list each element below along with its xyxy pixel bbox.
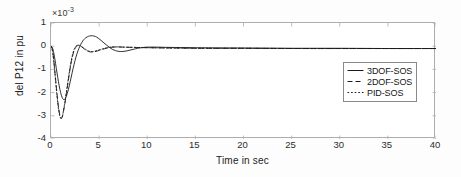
legend-line-sample — [347, 66, 364, 75]
y-tick-label: -2 — [22, 87, 46, 97]
x-tick-label: 5 — [95, 140, 100, 150]
y-tick-label: -1 — [22, 63, 46, 73]
x-tick-label: 0 — [47, 140, 52, 150]
x-tick-label: 35 — [382, 140, 393, 150]
y-axis-title: del P12 in pu — [14, 20, 25, 112]
legend-label: PID-SOS — [367, 88, 403, 98]
y-tick-label: 0 — [22, 40, 46, 50]
y-tick-label: 1 — [22, 17, 46, 27]
y-axis-exponent-label: ×10-3 — [52, 6, 74, 18]
y-exponent-power: -3 — [68, 6, 74, 13]
x-tick-label: 40 — [430, 140, 441, 150]
x-tick-label: 10 — [141, 140, 152, 150]
x-tick-label: 30 — [333, 140, 344, 150]
legend-line-sample — [347, 88, 364, 97]
x-axis-tick-labels: 0510152025303540 — [50, 140, 435, 154]
x-tick-label: 20 — [237, 140, 248, 150]
legend-line-sample — [347, 77, 364, 86]
x-axis-title: Time in sec — [50, 155, 435, 166]
legend-item-2dof-sos[interactable]: 2DOF-SOS — [347, 76, 412, 87]
x-tick-label: 15 — [189, 140, 200, 150]
legend-item-3dof-sos[interactable]: 3DOF-SOS — [347, 65, 412, 76]
y-exponent-base: 10 — [57, 8, 67, 18]
y-tick-label: -4 — [22, 133, 46, 143]
legend-box: 3DOF-SOS2DOF-SOSPID-SOS — [343, 62, 417, 102]
legend-label: 3DOF-SOS — [367, 66, 412, 76]
legend-label: 2DOF-SOS — [367, 77, 412, 87]
legend-item-pid-sos[interactable]: PID-SOS — [347, 87, 412, 98]
y-tick-label: -3 — [22, 110, 46, 120]
x-tick-label: 25 — [285, 140, 296, 150]
figure-canvas: ×10-3 10-1-2-3-4 0510152025303540 Time i… — [0, 0, 461, 177]
